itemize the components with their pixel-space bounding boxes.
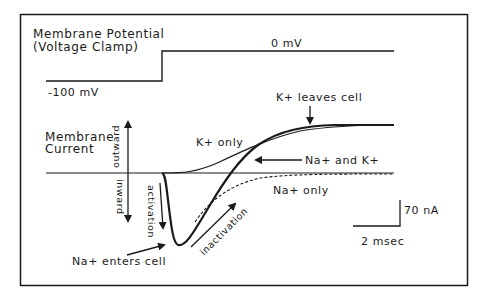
voltage-title-line1: Membrane Potential xyxy=(33,27,165,41)
scale-current-label: 70 nA xyxy=(404,204,439,217)
current-title-line2: Current xyxy=(45,142,94,156)
voltage-step-trace xyxy=(46,51,394,81)
inward-label: inward xyxy=(115,179,126,215)
voltage-hold-label: -100 mV xyxy=(48,86,99,99)
na-enters-label: Na+ enters cell xyxy=(72,255,166,268)
na-and-k-label: Na+ and K+ xyxy=(305,154,379,167)
scale-bar xyxy=(353,200,400,226)
na-only-label: Na+ only xyxy=(273,184,329,197)
activation-arrow xyxy=(160,183,163,228)
k-only-label: K+ only xyxy=(196,136,243,149)
activation-label: activation xyxy=(146,185,157,238)
voltage-title-line2: (Voltage Clamp) xyxy=(33,40,139,54)
na-enters-arrow xyxy=(127,245,164,255)
scale-time-label: 2 msec xyxy=(361,235,404,248)
voltage-step-label: 0 mV xyxy=(271,37,302,50)
voltage-clamp-diagram: Membrane Potential (Voltage Clamp) -100 … xyxy=(0,0,487,299)
outward-label: outward xyxy=(110,125,121,168)
k-leaves-label: K+ leaves cell xyxy=(276,91,362,104)
